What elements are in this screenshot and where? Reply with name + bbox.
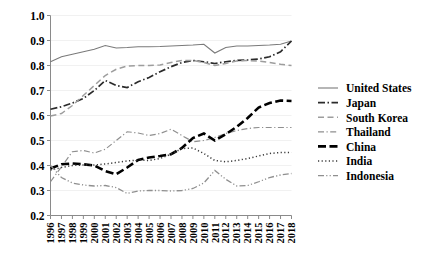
legend-label-china: China [346, 141, 376, 153]
x-tick-label: 1996 [45, 223, 56, 244]
x-tick-label: 2011 [210, 223, 221, 243]
data-series-group [51, 41, 292, 194]
x-tick-label: 2007 [166, 223, 177, 244]
y-tick-label: 0.9 [30, 35, 45, 47]
series-line-indonesia [51, 166, 292, 194]
x-tick-labels: 1996199719981999200020012002200320042005… [45, 222, 297, 244]
legend-label-japan: Japan [346, 97, 377, 110]
y-axis [47, 16, 51, 216]
x-tick-label: 2017 [275, 223, 286, 244]
y-tick-label: 0.5 [30, 135, 45, 147]
x-tick-label: 2012 [220, 223, 231, 244]
legend-label-united-states: United States [346, 82, 412, 94]
series-line-china [51, 101, 292, 175]
x-tick-label: 2001 [100, 223, 111, 244]
x-tick-label: 2005 [144, 223, 155, 244]
legend-label-indonesia: Indonesia [346, 170, 394, 182]
y-tick-labels: 1.00.90.80.70.60.50.40.30.2 [30, 10, 45, 222]
x-tick-label: 2018 [286, 223, 297, 244]
x-tick-label: 2014 [242, 222, 253, 244]
x-tick-label: 2010 [199, 223, 210, 244]
x-tick-label: 2015 [253, 223, 264, 244]
x-tick-label: 1998 [67, 223, 78, 244]
x-tick-label: 2003 [122, 223, 133, 244]
y-tick-label: 0.7 [30, 85, 45, 97]
x-axis [51, 216, 292, 220]
chart-legend: United StatesJapanSouth KoreaThailandChi… [318, 82, 412, 182]
line-chart: 1.00.90.80.70.60.50.40.30.2 199619971998… [0, 0, 429, 276]
y-tick-label: 0.3 [30, 185, 45, 197]
x-tick-label: 2002 [111, 223, 122, 244]
x-tick-label: 2000 [89, 223, 100, 244]
y-tick-label: 0.8 [30, 60, 45, 72]
legend-label-south-korea: South Korea [346, 112, 408, 124]
y-tick-label: 0.6 [30, 110, 45, 122]
y-tick-label: 0.4 [30, 160, 45, 172]
x-tick-label: 2008 [177, 223, 188, 244]
chart-canvas: 1.00.90.80.70.60.50.40.30.2 199619971998… [0, 0, 429, 276]
legend-label-thailand: Thailand [346, 126, 391, 138]
y-tick-label: 1.0 [30, 10, 45, 22]
x-tick-label: 1997 [56, 223, 67, 244]
x-tick-label: 1999 [78, 223, 89, 244]
x-tick-label: 2016 [264, 223, 275, 244]
x-tick-label: 2006 [155, 223, 166, 244]
series-line-south-korea [51, 61, 292, 117]
legend-label-india: India [346, 155, 372, 167]
x-tick-label: 2013 [231, 223, 242, 244]
x-tick-label: 2009 [188, 223, 199, 244]
x-tick-label: 2004 [133, 222, 144, 244]
y-tick-label: 0.2 [30, 210, 45, 222]
